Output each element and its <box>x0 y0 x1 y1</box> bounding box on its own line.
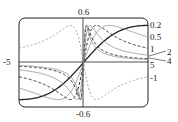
chart: 0.6 -0.6 -5 0.2 0.5 1 2 4 5 -1 <box>0 0 178 122</box>
x-min-label: -5 <box>3 57 11 67</box>
label-c-4: 4 <box>167 56 172 66</box>
label-c-0.5: 0.5 <box>150 32 162 42</box>
y-max-label: 0.6 <box>78 7 90 17</box>
curves <box>19 25 148 99</box>
label-c-1: 1 <box>150 44 155 54</box>
label-c-0.2: 0.2 <box>150 20 161 30</box>
label-c-5: 5 <box>150 60 155 70</box>
curve-c--1 <box>19 25 148 99</box>
y-min-label: -0.6 <box>76 109 91 119</box>
label-c-neg1: -1 <box>150 73 158 83</box>
